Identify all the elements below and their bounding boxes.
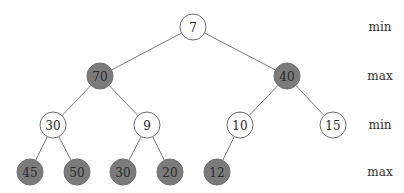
node-value: 12 xyxy=(209,166,224,180)
node-value: 70 xyxy=(92,70,107,84)
tree-node-min: 30 xyxy=(40,112,66,138)
tree-node-max: 45 xyxy=(17,159,43,185)
tree-node-max: 70 xyxy=(87,63,113,89)
node-value: 10 xyxy=(232,119,247,133)
node-value: 40 xyxy=(279,70,294,84)
node-value: 50 xyxy=(69,166,84,180)
edge-n2-n6 xyxy=(296,85,324,115)
tree-node-max: 12 xyxy=(204,159,230,185)
edge-n5-n11 xyxy=(223,137,235,161)
level-label-0: min xyxy=(369,20,392,34)
node-value: 30 xyxy=(115,166,130,180)
edge-n2-n5 xyxy=(249,85,278,115)
tree-node-min: 15 xyxy=(320,112,346,138)
edge-n4-n9 xyxy=(129,137,141,161)
level-labels-group: min max min max xyxy=(367,20,393,179)
tree-node-max: 40 xyxy=(274,63,300,89)
level-label-1: max xyxy=(367,69,393,83)
level-label-2: min xyxy=(369,118,392,132)
tree-node-min: 10 xyxy=(227,112,253,138)
node-value: 45 xyxy=(22,166,37,180)
tree-node-min: 7 xyxy=(180,14,206,40)
node-value: 9 xyxy=(143,119,151,133)
tree-node-max: 50 xyxy=(64,159,90,185)
nodes-group: 7704030910154550302012 xyxy=(17,14,346,185)
edge-n0-n1 xyxy=(112,33,182,70)
min-max-heap-diagram: 7704030910154550302012 min max min max xyxy=(0,0,404,193)
tree-node-max: 30 xyxy=(110,159,136,185)
edge-n4-n10 xyxy=(153,137,165,161)
edge-n0-n2 xyxy=(205,33,276,70)
edge-n1-n4 xyxy=(109,85,138,115)
level-label-3: max xyxy=(367,165,393,179)
tree-node-max: 20 xyxy=(157,159,183,185)
edge-n1-n3 xyxy=(62,85,91,115)
node-value: 20 xyxy=(162,166,177,180)
edges-group xyxy=(36,33,324,160)
edge-n3-n8 xyxy=(59,137,71,161)
node-value: 7 xyxy=(189,21,197,35)
node-value: 30 xyxy=(45,119,60,133)
edge-n3-n7 xyxy=(36,137,48,161)
tree-node-min: 9 xyxy=(134,112,160,138)
node-value: 15 xyxy=(325,119,340,133)
